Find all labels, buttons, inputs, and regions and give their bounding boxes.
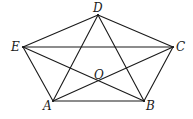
point-label-c: C bbox=[176, 40, 185, 54]
vertex-e bbox=[22, 46, 24, 48]
segments-group bbox=[23, 15, 173, 101]
vertex-c bbox=[172, 46, 174, 48]
pentagon-diagram: ABCDEO bbox=[0, 0, 193, 119]
segment-bc bbox=[144, 47, 173, 101]
points-group bbox=[22, 14, 174, 102]
segment-de bbox=[23, 15, 98, 47]
point-label-d: D bbox=[92, 1, 103, 15]
point-label-b: B bbox=[145, 99, 155, 113]
segment-cd bbox=[98, 15, 173, 47]
labels-group: ABCDEO bbox=[10, 1, 185, 113]
point-label-a: A bbox=[42, 99, 52, 113]
vertex-a bbox=[52, 100, 54, 102]
vertex-b bbox=[143, 100, 145, 102]
segment-be bbox=[23, 47, 144, 101]
segment-ac bbox=[53, 47, 173, 101]
segment-bd bbox=[98, 15, 144, 101]
point-label-o: O bbox=[94, 68, 104, 82]
segment-ad bbox=[53, 15, 98, 101]
point-label-e: E bbox=[10, 40, 20, 54]
segment-ea bbox=[23, 47, 53, 101]
